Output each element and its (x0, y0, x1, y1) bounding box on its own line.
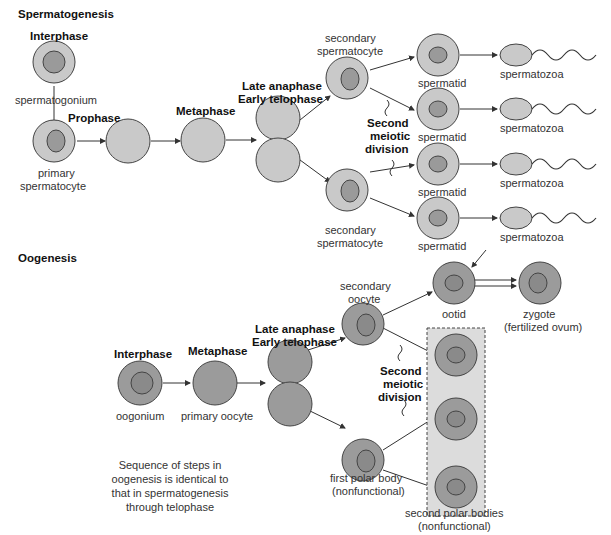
early-telophase-label: Early telophase (238, 93, 323, 106)
note-line: Sequence of steps in (100, 458, 240, 472)
second-meiotic-label: Second (367, 117, 409, 130)
oo-interphase-label: Interphase (114, 348, 172, 361)
second-meiotic-label-3: division (365, 143, 408, 156)
primary-spermatocyte-label: spermatocyte (20, 180, 86, 193)
oogonium-label: oogonium (116, 410, 164, 423)
spermatozoa-label: spermatozoa (500, 231, 564, 244)
oo-metaphase-label: Metaphase (188, 345, 247, 358)
first-polar-label-2: (nonfunctional) (332, 485, 405, 498)
secondary-bot-label-2: spermatocyte (317, 237, 383, 250)
second-polar-label: second polar bodies (405, 507, 503, 520)
oo-second-meiotic-label-3: division (378, 391, 421, 404)
spermatogonium-label: spermatogonium (15, 94, 97, 107)
primary-label: primary (38, 167, 75, 180)
spermatid-label: spermatid (418, 77, 466, 90)
oo-second-meiotic-label: Second (380, 365, 422, 378)
zygote-label-2: (fertilized ovum) (504, 321, 582, 334)
interphase-label: Interphase (30, 30, 88, 43)
second-polar-label-2: (nonfunctional) (418, 520, 491, 533)
note-line: through telophase (100, 500, 240, 514)
spermatid-label: spermatid (418, 186, 466, 199)
secondary-oocyte-label: secondary (340, 280, 391, 293)
spermatogenesis-title: Spermatogenesis (18, 8, 114, 20)
secondary-top-label-2: spermatocyte (317, 45, 383, 58)
prophase-label: Prophase (68, 112, 120, 125)
oo-early-telophase-label: Early telophase (252, 336, 337, 349)
zygote-label: zygote (523, 308, 555, 321)
second-meiotic-label-2: meiotic (370, 130, 410, 143)
first-polar-label: first polar body (330, 472, 402, 485)
spermatozoa-label: spermatozoa (500, 177, 564, 190)
spermatid-label: spermatid (418, 240, 466, 253)
oogenesis-title: Oogenesis (18, 252, 77, 264)
spermatid-label: spermatid (418, 131, 466, 144)
metaphase-label: Metaphase (176, 105, 235, 118)
oo-late-anaphase-label: Late anaphase (255, 323, 335, 336)
secondary-oocyte-label-2: oocyte (348, 293, 380, 306)
note-line: oogenesis is identical to (100, 472, 240, 486)
spermatozoa-label: spermatozoa (500, 68, 564, 81)
secondary-top-label: secondary (325, 32, 376, 45)
primary-oocyte-label: primary oocyte (181, 410, 253, 423)
note-line: that in spermatogenesis (100, 486, 240, 500)
oogenesis-note: Sequence of steps in oogenesis is identi… (100, 458, 240, 514)
oo-second-meiotic-label-2: meiotic (383, 378, 423, 391)
late-anaphase-label: Late anaphase (242, 80, 322, 93)
spermatozoa-label: spermatozoa (500, 122, 564, 135)
ootid-label: ootid (442, 308, 466, 321)
secondary-bot-label: secondary (325, 224, 376, 237)
